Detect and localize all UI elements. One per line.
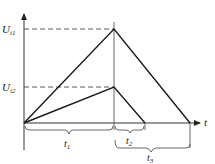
- label-t1: t1: [64, 138, 70, 151]
- label-t3: t3: [147, 152, 154, 164]
- voltage-time-diagram: Ui1 Ui2 t t1 t2 t3: [0, 0, 215, 164]
- label-ui1: Ui1: [2, 23, 15, 37]
- brace-t1: [25, 126, 113, 134]
- label-t2: t2: [126, 135, 133, 148]
- brace-t2: [115, 126, 144, 133]
- label-t-axis: t: [204, 116, 208, 128]
- waveform-ui1: [24, 29, 190, 123]
- label-ui2: Ui2: [2, 81, 16, 95]
